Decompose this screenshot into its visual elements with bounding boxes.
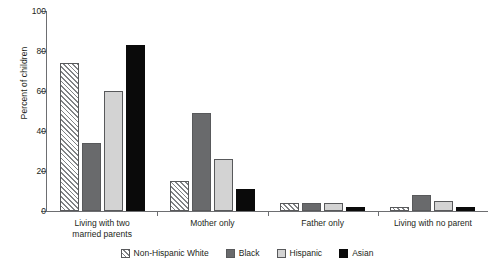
legend-label: Hispanic [290, 249, 323, 258]
bar-group-bars [47, 11, 157, 211]
x-axis-category-label-line: married parents [47, 229, 157, 240]
y-tick-label: 80 [22, 47, 46, 56]
y-tick-label: 40 [22, 127, 46, 136]
y-tick-label: 60 [22, 87, 46, 96]
x-axis-category-label-line: Living with two [47, 218, 157, 229]
legend-item[interactable]: Non-Hispanic White [121, 249, 209, 258]
legend-label: Black [239, 249, 260, 258]
plot-area [47, 11, 488, 211]
chart-legend: Non-Hispanic WhiteBlackHispanicAsian [0, 249, 494, 258]
y-tick-label: 20 [22, 167, 46, 176]
x-axis-category-label-line: Living with no parent [378, 218, 488, 229]
y-tick: 80 [0, 51, 46, 52]
y-tick: 100 [0, 11, 46, 12]
bar-group [157, 11, 267, 211]
x-axis-category-label: Mother only [157, 218, 267, 229]
legend-swatch-icon [277, 249, 286, 258]
bar [192, 113, 211, 211]
y-tick: 20 [0, 171, 46, 172]
bar [104, 91, 123, 211]
bar [456, 207, 475, 211]
x-axis-category-label: Living with twomarried parents [47, 218, 157, 239]
y-tick: 40 [0, 131, 46, 132]
bar-group-bars [378, 11, 488, 211]
bar-group [378, 11, 488, 211]
bar [302, 203, 321, 211]
bar [390, 207, 409, 211]
x-axis-category-label-line: Father only [268, 218, 378, 229]
legend-swatch-icon [226, 249, 235, 258]
bar [82, 143, 101, 211]
legend-swatch-icon [339, 249, 348, 258]
legend-swatch-icon [121, 249, 130, 258]
legend-item[interactable]: Hispanic [277, 249, 323, 258]
legend-label: Non-Hispanic White [134, 249, 209, 258]
bar-group-bars [268, 11, 378, 211]
legend-item[interactable]: Black [226, 249, 260, 258]
y-tick-label: 100 [22, 7, 46, 16]
legend-item[interactable]: Asian [339, 249, 373, 258]
x-tick-mark [268, 211, 269, 216]
bar-group [47, 11, 157, 211]
bar [170, 181, 189, 211]
legend-label: Asian [352, 249, 373, 258]
bar [412, 195, 431, 211]
bar [434, 201, 453, 211]
bar [280, 203, 299, 211]
bar [236, 189, 255, 211]
x-axis-category-label: Father only [268, 218, 378, 229]
x-axis-category-label: Living with no parent [378, 218, 488, 229]
bar [324, 203, 343, 211]
x-tick-mark [378, 211, 379, 216]
bar-chart: Percent of children 020406080100 Living … [0, 0, 494, 273]
y-tick: 60 [0, 91, 46, 92]
bar-group-bars [157, 11, 267, 211]
x-tick-mark [157, 211, 158, 216]
bar-group [268, 11, 378, 211]
bar [214, 159, 233, 211]
bar [60, 63, 79, 211]
y-tick-label: 0 [22, 207, 46, 216]
y-axis-title: Percent of children [19, 3, 29, 163]
y-tick: 0 [0, 211, 46, 212]
x-axis-category-label-line: Mother only [157, 218, 267, 229]
bar [346, 207, 365, 211]
bar [126, 45, 145, 211]
